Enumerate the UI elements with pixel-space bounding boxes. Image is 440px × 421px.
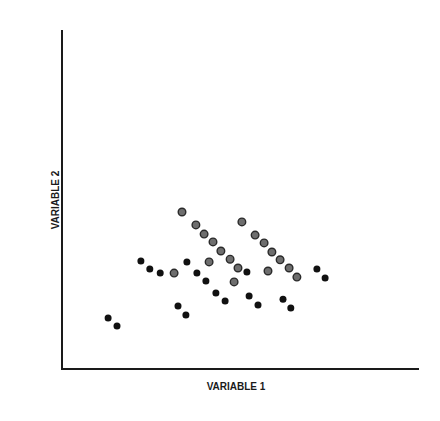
black-data-point bbox=[287, 305, 294, 312]
gray-data-point bbox=[264, 267, 272, 275]
black-data-point bbox=[193, 270, 200, 277]
gray-data-point bbox=[170, 269, 178, 277]
gray-data-point bbox=[200, 230, 208, 238]
gray-data-point bbox=[209, 238, 217, 246]
black-data-point bbox=[280, 296, 287, 303]
gray-data-point bbox=[178, 208, 186, 216]
black-data-point bbox=[157, 270, 164, 277]
black-data-point bbox=[246, 293, 253, 300]
black-data-point bbox=[322, 275, 329, 282]
gray-data-point bbox=[238, 218, 246, 226]
black-data-point bbox=[202, 277, 209, 284]
black-data-point bbox=[212, 290, 219, 297]
black-data-point bbox=[175, 302, 182, 309]
black-data-point bbox=[137, 257, 144, 264]
black-data-point bbox=[255, 301, 262, 308]
black-data-point bbox=[313, 266, 320, 273]
x-axis-label: VARIABLE 1 bbox=[207, 381, 266, 392]
black-data-point bbox=[105, 315, 112, 322]
gray-data-point bbox=[260, 239, 268, 247]
gray-data-point bbox=[251, 231, 259, 239]
gray-data-point bbox=[205, 258, 213, 266]
gray-data-point bbox=[285, 264, 293, 272]
scatter-chart: VARIABLE 1 VARIABLE 2 bbox=[0, 0, 440, 421]
gray-data-point bbox=[226, 255, 234, 263]
gray-data-point bbox=[234, 264, 242, 272]
gray-data-point bbox=[293, 273, 301, 281]
black-data-point bbox=[146, 266, 153, 273]
gray-data-point bbox=[268, 248, 276, 256]
black-data-point bbox=[243, 269, 250, 276]
y-axis-label: VARIABLE 2 bbox=[50, 170, 61, 229]
black-data-point bbox=[114, 322, 121, 329]
black-data-point bbox=[183, 258, 190, 265]
gray-data-point bbox=[276, 256, 284, 264]
black-data-point bbox=[182, 312, 189, 319]
gray-data-point bbox=[192, 221, 200, 229]
gray-data-point bbox=[217, 247, 225, 255]
gray-data-point bbox=[230, 278, 238, 286]
points-layer bbox=[105, 208, 329, 329]
black-data-point bbox=[222, 297, 229, 304]
